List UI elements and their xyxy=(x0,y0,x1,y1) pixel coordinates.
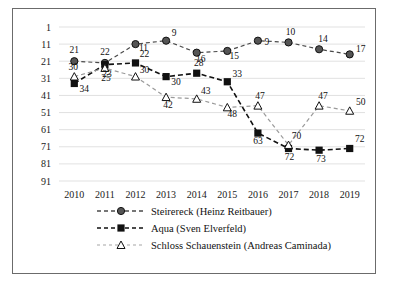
y-tick-label: 81 xyxy=(41,158,51,169)
x-tick-label: 2013 xyxy=(156,189,176,200)
y-tick-label: 61 xyxy=(41,124,51,135)
data-point-label: 9 xyxy=(265,37,270,47)
y-tick-label: 71 xyxy=(41,141,51,152)
data-point-label: 10 xyxy=(286,27,296,37)
data-point-label: 73 xyxy=(316,154,326,164)
data-point-label: 17 xyxy=(356,44,366,54)
data-point-label: 47 xyxy=(255,91,265,101)
legend-item-schloss-schauenstein: Schloss Schauenstein (Andreas Caminada) xyxy=(13,239,375,251)
legend-marker-filled-square-icon xyxy=(95,222,147,234)
plot-area: 1112131415161718191 20102011201220132014… xyxy=(13,9,375,209)
chart-legend: Steirereck (Heinz Reitbauer) Aqua (Sven … xyxy=(13,205,375,256)
data-point-marker xyxy=(316,46,323,53)
data-point-label: 15 xyxy=(230,51,240,61)
data-point-label: 28 xyxy=(194,58,204,68)
data-point-marker xyxy=(163,37,170,44)
data-point-label: 21 xyxy=(70,45,80,55)
data-point-marker xyxy=(346,107,354,114)
legend-label-steirereck: Steirereck (Heinz Reitbauer) xyxy=(151,206,272,217)
x-tick-label: 2018 xyxy=(309,189,329,200)
y-tick-label: 1 xyxy=(46,22,51,33)
legend-marker-hollow-triangle-icon xyxy=(95,239,147,251)
data-point-label: 14 xyxy=(318,34,328,44)
data-point-marker xyxy=(132,73,140,80)
y-tick-label: 21 xyxy=(41,56,51,67)
x-tick-label: 2011 xyxy=(95,189,115,200)
x-tick-label: 2010 xyxy=(64,189,84,200)
chart-figure: 1112131415161718191 20102011201220132014… xyxy=(12,8,376,274)
x-tick-label: 2019 xyxy=(340,189,360,200)
data-point-marker xyxy=(163,73,170,80)
data-point-label: 30 xyxy=(69,62,79,72)
data-point-label: 63 xyxy=(253,136,263,146)
x-axis-tick-labels: 2010201120122013201420152016201720182019 xyxy=(64,189,359,200)
y-tick-label: 91 xyxy=(41,176,51,187)
data-point-marker xyxy=(285,39,292,46)
y-tick-label: 41 xyxy=(41,90,51,101)
series-line xyxy=(74,68,349,145)
data-point-marker xyxy=(71,80,78,87)
data-point-marker xyxy=(315,102,323,109)
x-tick-label: 2012 xyxy=(126,189,146,200)
data-point-marker xyxy=(193,70,200,77)
data-point-label: 22 xyxy=(100,47,110,57)
data-point-label: 30 xyxy=(171,77,181,87)
data-point-label: 72 xyxy=(285,152,295,162)
rank-line-chart: 1112131415161718191 20102011201220132014… xyxy=(13,9,375,209)
legend-label-aqua: Aqua (Sven Elverfeld) xyxy=(151,223,246,234)
data-point-label: 50 xyxy=(356,97,366,107)
legend-label-schloss-schauenstein: Schloss Schauenstein (Andreas Caminada) xyxy=(151,240,331,251)
y-tick-label: 31 xyxy=(41,73,51,84)
data-point-label: 34 xyxy=(80,84,90,94)
data-point-marker xyxy=(254,37,261,44)
data-point-marker xyxy=(346,145,353,152)
data-point-label: 22 xyxy=(140,49,150,59)
x-tick-label: 2017 xyxy=(279,189,299,200)
x-tick-label: 2015 xyxy=(217,189,237,200)
data-point-label: 25 xyxy=(101,73,111,83)
legend-marker-filled-circle-icon xyxy=(95,205,147,217)
x-tick-label: 2014 xyxy=(187,189,207,200)
data-point-label: 43 xyxy=(201,86,211,96)
data-point-label: 33 xyxy=(233,69,243,79)
data-point-label: 70 xyxy=(292,131,302,141)
data-point-marker xyxy=(346,51,353,58)
data-point-label: 48 xyxy=(228,109,238,119)
legend-item-steirereck: Steirereck (Heinz Reitbauer) xyxy=(13,205,375,217)
data-point-label: 9 xyxy=(172,28,177,38)
y-tick-label: 11 xyxy=(41,39,51,50)
legend-item-aqua: Aqua (Sven Elverfeld) xyxy=(13,222,375,234)
data-point-marker xyxy=(224,78,231,85)
data-point-label: 72 xyxy=(355,134,365,144)
data-point-label: 47 xyxy=(318,91,328,101)
y-tick-label: 51 xyxy=(41,107,51,118)
data-point-marker xyxy=(132,59,139,66)
data-point-label: 30 xyxy=(140,65,150,75)
x-tick-label: 2016 xyxy=(248,189,268,200)
data-point-marker xyxy=(316,147,323,154)
series-line xyxy=(74,63,349,150)
data-point-label: 42 xyxy=(163,100,173,110)
y-axis-tick-labels: 1112131415161718191 xyxy=(41,22,51,187)
